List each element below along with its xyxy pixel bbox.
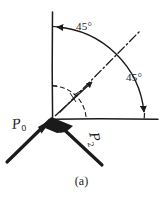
horizontal-axis <box>52 119 158 120</box>
angle-label-top: 45° <box>76 21 92 32</box>
figure-caption: (a) <box>0 174 163 189</box>
vector-label-p0: P0 <box>11 116 27 134</box>
angle-label-right: 45° <box>126 72 142 83</box>
vector-label-p0-subscript: 0 <box>21 124 27 134</box>
minor-arc-top-tick <box>53 86 58 87</box>
figure-panel: 45° 45° P0 P2 (a) <box>0 0 163 199</box>
vector-label-p2-base: P <box>86 131 102 143</box>
